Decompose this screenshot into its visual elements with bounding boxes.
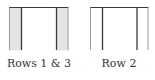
- panel-row-2: [90, 8, 149, 51]
- shaded-bay-left: [10, 8, 22, 51]
- shaded-bay-right: [57, 8, 69, 51]
- row-layout-figure: Rows 1 & 3 Row 2: [0, 0, 155, 80]
- panel-label-row-2: Row 2: [80, 57, 155, 71]
- panel-rows-1-3: [9, 8, 69, 51]
- panel-label-rows-1-3: Rows 1 & 3: [0, 57, 78, 71]
